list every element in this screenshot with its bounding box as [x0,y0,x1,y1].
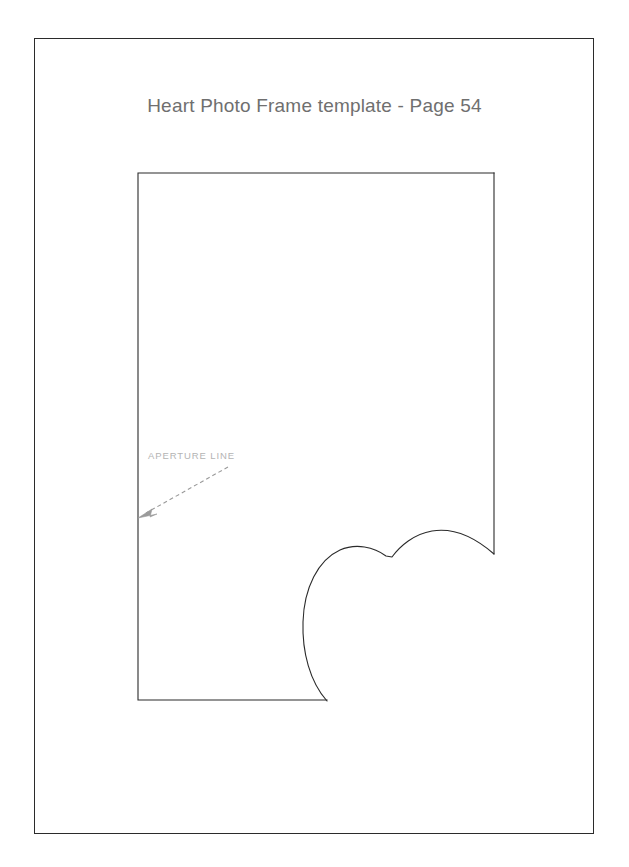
template-drawing [0,0,629,867]
heart-aperture-line [303,530,494,701]
page-sheet: Heart Photo Frame template - Page 54 APE… [0,0,629,867]
aperture-callout-line [146,467,228,513]
aperture-line-label: APERTURE LINE [148,450,235,461]
aperture-callout-arrowhead [138,509,157,518]
template-rect-outline [138,173,494,700]
